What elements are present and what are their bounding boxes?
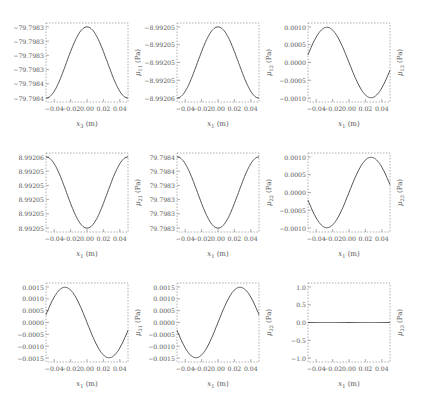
y-tick-label: 1.0 — [296, 284, 306, 291]
x-tick-label: −0.02 — [192, 105, 211, 112]
x-tick-label: −0.02 — [61, 365, 80, 372]
y-tick-label: −79.7983 — [13, 66, 44, 73]
plot-panel-21: 8.992068.992058.992058.992058.992058.992… — [18, 153, 142, 259]
x-axis-label: x1 (m) — [207, 380, 229, 389]
y-tick-label: 0.0010 — [284, 154, 306, 161]
y-tick-label: 79.7983 — [149, 196, 175, 203]
y-tick-label: 0.0010 — [284, 24, 306, 31]
x-tick-label: 0.04 — [375, 235, 389, 242]
y-tick-label: −79.7983 — [13, 38, 44, 45]
y-tick-label: 8.99205 — [18, 168, 44, 175]
x-tick-label: 0.04 — [244, 235, 258, 242]
x-tick-label: 0.04 — [113, 105, 127, 112]
plot-frame — [177, 23, 259, 102]
x-axis-label: x1 (m) — [76, 380, 98, 389]
y-tick-label: 0.0005 — [284, 171, 306, 178]
y-tick-label: 8.99206 — [18, 154, 44, 161]
x-tick-label: 0.02 — [359, 235, 373, 242]
y-tick-label: 0.0005 — [22, 307, 44, 314]
data-curve — [177, 157, 259, 228]
x-tick-label: 0.00 — [211, 105, 225, 112]
x-tick-label: 0.00 — [211, 365, 225, 372]
data-curve — [177, 287, 259, 357]
y-tick-label: −0.0005 — [279, 77, 306, 84]
y-tick-label: 0.0010 — [22, 295, 44, 302]
y-tick-label: 0.0000 — [284, 189, 306, 196]
plot-panel-32: 0.00150.00100.00050.0000−0.0005−0.0010−0… — [148, 283, 273, 389]
plot-grid: −79.7983−79.7983−79.7983−79.7983−79.7984… — [0, 0, 424, 397]
y-tick-label: 0.0000 — [284, 59, 306, 66]
y-tick-label: −79.7983 — [13, 52, 44, 59]
y-tick-label: −0.0010 — [279, 95, 306, 102]
y-tick-label: −0.0015 — [148, 355, 175, 362]
y-axis-label: μ22 (Pa) — [265, 179, 274, 206]
y-tick-label: 8.99205 — [18, 196, 44, 203]
y-tick-label: 8.99205 — [18, 225, 44, 232]
y-tick-label: −0.0010 — [279, 225, 306, 232]
plot-frame — [46, 153, 128, 232]
x-tick-label: 0.04 — [375, 365, 389, 372]
plot-panel-12: −8.99205−8.99205−8.99205−8.99205−8.99206… — [144, 23, 273, 129]
y-tick-label: −8.99205 — [144, 59, 175, 66]
plot-panel-22: 79.798479.798479.798379.798379.798379.79… — [149, 153, 273, 259]
x-tick-label: 0.04 — [375, 105, 389, 112]
plot-panel-31: 0.00150.00100.00050.0000−0.0005−0.0010−0… — [17, 283, 142, 389]
y-tick-label: 0.5 — [296, 301, 306, 308]
x-tick-label: 0.00 — [80, 235, 94, 242]
y-tick-label: −8.99205 — [144, 77, 175, 84]
y-tick-label: −79.7984 — [13, 95, 44, 102]
x-tick-label: 0.04 — [113, 235, 127, 242]
x-tick-label: 0.02 — [97, 365, 111, 372]
x-tick-label: −0.02 — [323, 105, 342, 112]
x-tick-label: 0.00 — [342, 235, 356, 242]
figure-canvas: −79.7983−79.7983−79.7983−79.7983−79.7984… — [0, 0, 424, 397]
x-tick-label: 0.04 — [244, 105, 258, 112]
y-tick-label: −79.7984 — [13, 80, 44, 87]
data-curve — [308, 27, 390, 97]
x-tick-label: 0.02 — [97, 235, 111, 242]
x-axis-label: x1 (m) — [338, 250, 360, 259]
y-tick-label: −0.0010 — [17, 343, 44, 350]
y-tick-label: −8.99205 — [144, 41, 175, 48]
x-tick-label: −0.02 — [323, 365, 342, 372]
y-tick-label: 8.99205 — [18, 182, 44, 189]
y-tick-label: 0.0010 — [153, 295, 175, 302]
y-tick-label: −0.5 — [291, 337, 306, 344]
x-tick-label: 0.00 — [342, 105, 356, 112]
x-tick-label: 0.00 — [80, 365, 94, 372]
x-tick-label: 0.02 — [359, 105, 373, 112]
x-tick-label: −0.02 — [61, 105, 80, 112]
y-tick-label: 79.7983 — [149, 225, 175, 232]
y-axis-label: μ32 (Pa) — [265, 309, 274, 336]
x-tick-label: −0.02 — [192, 365, 211, 372]
x-tick-label: 0.00 — [342, 365, 356, 372]
y-axis-label: μ21 (Pa) — [134, 179, 143, 206]
x-axis-label: x1 (m) — [338, 380, 360, 389]
y-tick-label: −8.99206 — [144, 95, 175, 102]
y-tick-label: 0.0000 — [153, 319, 175, 326]
data-curve — [46, 27, 128, 98]
plot-panel-13: 0.00100.00050.0000−0.0005−0.0010−0.04−0.… — [279, 23, 404, 129]
y-tick-label: 0.0005 — [153, 307, 175, 314]
plot-frame — [177, 153, 259, 232]
x-tick-label: 0.02 — [97, 105, 111, 112]
y-tick-label: 8.99205 — [18, 210, 44, 217]
x-tick-label: −0.02 — [323, 235, 342, 242]
y-tick-label: 79.7984 — [149, 168, 175, 175]
y-axis-label: μ23 (Pa) — [396, 179, 405, 206]
y-tick-label: −0.0005 — [17, 331, 44, 338]
x-axis-label: x1 (m) — [207, 250, 229, 259]
data-curve — [308, 157, 390, 227]
y-axis-label: μ33 (Pa) — [396, 309, 405, 336]
x-tick-label: 0.04 — [113, 365, 127, 372]
x-tick-label: 0.00 — [211, 235, 225, 242]
x-tick-label: −0.02 — [61, 235, 80, 242]
x-axis-label: x1 (m) — [207, 120, 229, 129]
x-axis-label: x1 (m) — [338, 120, 360, 129]
y-tick-label: 79.7983 — [149, 182, 175, 189]
x-tick-label: 0.02 — [228, 365, 242, 372]
y-tick-label: 0.0 — [296, 319, 306, 326]
y-tick-label: −8.99205 — [144, 24, 175, 31]
y-tick-label: 79.7984 — [149, 154, 175, 161]
x-tick-label: 0.02 — [228, 235, 242, 242]
